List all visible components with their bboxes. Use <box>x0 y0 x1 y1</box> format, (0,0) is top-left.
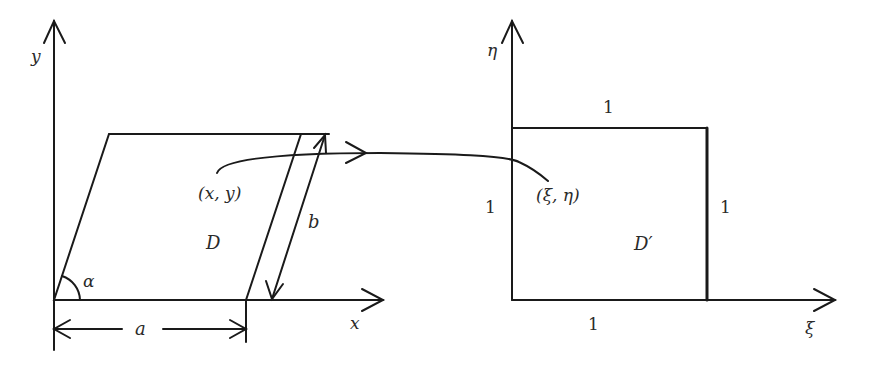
b-dimension-label: b <box>308 211 320 232</box>
angle-arc <box>62 276 80 300</box>
right-figure: η ξ D′ (ξ, η) 1 1 1 1 <box>485 21 835 338</box>
left-figure: y x D (x, y) α a b <box>30 21 383 350</box>
x-axis-label: x <box>350 313 360 333</box>
a-dimension-label: a <box>135 318 146 339</box>
right-side-length-label: 1 <box>720 197 731 217</box>
top-side-length-label: 1 <box>603 97 614 117</box>
region-d-label: D <box>205 232 221 253</box>
mapping-curve <box>217 153 548 181</box>
alpha-label: α <box>83 271 95 291</box>
xi-axis-label: ξ <box>805 318 816 338</box>
left-side-length-label: 1 <box>485 197 496 217</box>
bottom-side-length-label: 1 <box>588 314 599 334</box>
eta-axis-label: η <box>487 40 498 60</box>
point-xi-eta-label: (ξ, η) <box>536 185 580 205</box>
y-axis-label: y <box>30 46 41 66</box>
region-d-prime-label: D′ <box>633 233 653 254</box>
point-xy-label: (x, y) <box>198 183 241 203</box>
mapping-diagram: y x D (x, y) α a b η ξ D′ (ξ, η) 1 1 1 1 <box>0 0 870 367</box>
mapping-arrow <box>217 142 548 181</box>
